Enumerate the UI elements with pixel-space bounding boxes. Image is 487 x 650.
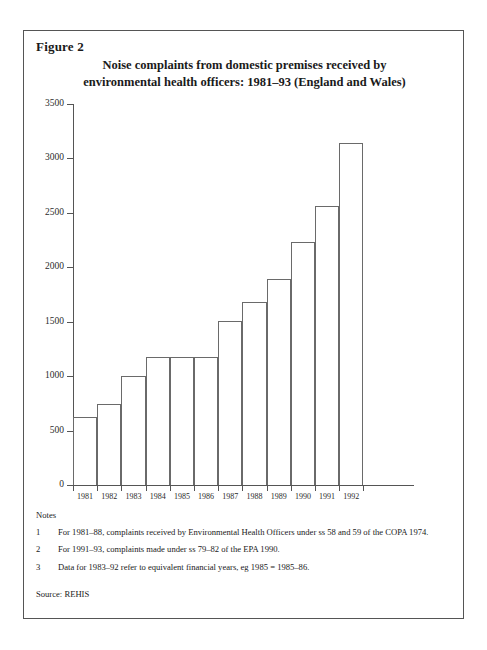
x-axis-label: 1983 xyxy=(121,492,145,501)
y-axis-label: 2500 xyxy=(24,207,64,217)
note-item: 2For 1991–93, complaints made under ss 7… xyxy=(36,543,454,556)
x-axis-tick xyxy=(97,485,98,491)
source-line: Source: REHIS xyxy=(36,588,454,601)
bar-1991 xyxy=(315,206,339,485)
y-axis-label: 500 xyxy=(24,425,64,435)
bar-1990 xyxy=(291,242,315,485)
x-axis-tick xyxy=(170,485,171,491)
notes-heading: Notes xyxy=(36,509,454,522)
bar-1986 xyxy=(194,357,218,485)
bar-1981 xyxy=(73,417,97,485)
bar-1983 xyxy=(121,376,145,485)
x-axis-label: 1991 xyxy=(315,492,339,501)
x-axis-tick xyxy=(339,485,340,491)
note-text: Data for 1983–92 refer to equivalent fin… xyxy=(58,561,454,574)
x-axis-label: 1984 xyxy=(146,492,170,501)
x-axis-label: 1985 xyxy=(170,492,194,501)
notes-section: Notes 1For 1981–88, complaints received … xyxy=(36,509,454,601)
x-axis-label: 1990 xyxy=(291,492,315,501)
x-axis-label: 1987 xyxy=(218,492,242,501)
bar-1982 xyxy=(97,404,121,485)
x-axis-label: 1986 xyxy=(194,492,218,501)
y-axis-label: 0 xyxy=(24,479,64,489)
x-axis-tick xyxy=(363,485,364,491)
x-axis-label: 1988 xyxy=(242,492,266,501)
x-axis-tick xyxy=(121,485,122,491)
note-number: 2 xyxy=(36,543,58,556)
note-text: For 1991–93, complaints made under ss 79… xyxy=(58,543,454,556)
bar-chart: 0500100015002000250030003500 19811982198… xyxy=(24,31,465,501)
note-text: For 1981–88, complaints received by Envi… xyxy=(58,526,454,539)
bar-1987 xyxy=(218,321,242,485)
x-axis-label: 1989 xyxy=(267,492,291,501)
x-axis-tick xyxy=(194,485,195,491)
x-axis-tick xyxy=(242,485,243,491)
x-axis-tick xyxy=(218,485,219,491)
x-axis-tick xyxy=(291,485,292,491)
figure-box: Figure 2 Noise complaints from domestic … xyxy=(23,30,464,619)
y-axis-label: 3500 xyxy=(24,98,64,108)
note-item: 1For 1981–88, complaints received by Env… xyxy=(36,526,454,539)
x-axis-tick xyxy=(146,485,147,491)
x-axis-tick xyxy=(73,485,74,491)
note-number: 3 xyxy=(36,561,58,574)
note-item: 3Data for 1983–92 refer to equivalent fi… xyxy=(36,561,454,574)
y-axis-label: 1500 xyxy=(24,316,64,326)
x-axis-label: 1981 xyxy=(73,492,97,501)
y-axis-label: 2000 xyxy=(24,261,64,271)
plot-area xyxy=(73,104,395,485)
x-axis-label: 1982 xyxy=(97,492,121,501)
bar-1992 xyxy=(339,143,363,485)
y-axis-label: 3000 xyxy=(24,152,64,162)
bar-1985 xyxy=(170,357,194,485)
x-axis-tick xyxy=(315,485,316,491)
bar-1988 xyxy=(242,302,266,485)
x-axis-label: 1992 xyxy=(339,492,363,501)
y-axis-label: 1000 xyxy=(24,370,64,380)
bar-1989 xyxy=(267,279,291,485)
bar-1984 xyxy=(146,357,170,485)
x-axis-tick xyxy=(267,485,268,491)
notes-list: 1For 1981–88, complaints received by Env… xyxy=(36,526,454,574)
note-number: 1 xyxy=(36,526,58,539)
